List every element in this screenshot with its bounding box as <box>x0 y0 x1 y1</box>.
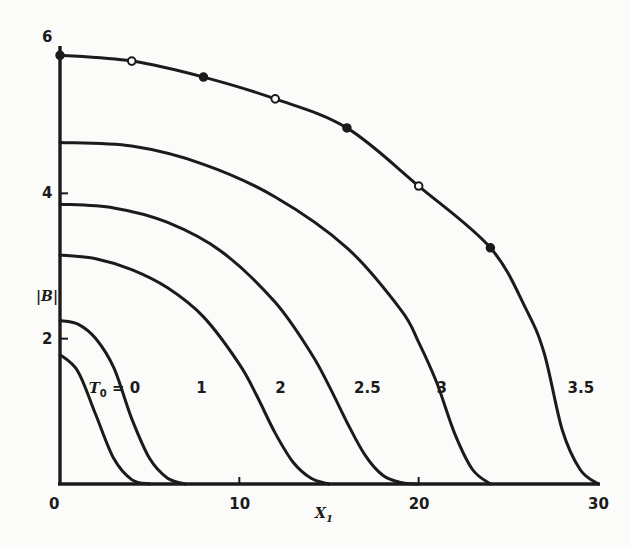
x-tick-label: 0 <box>49 495 59 513</box>
chart: 0102030 246 X1 |B| T0 = 0122.533.5 <box>0 0 631 548</box>
x-tick-label: 20 <box>409 495 430 513</box>
filled-data-marker <box>199 73 207 81</box>
x-tick-label: 10 <box>229 495 250 513</box>
curve-2 <box>60 255 329 484</box>
curve-label: 2.5 <box>354 379 381 397</box>
open-data-marker <box>128 57 136 65</box>
curve-label: 3.5 <box>568 379 595 397</box>
x-axis-label: X1 <box>314 505 333 524</box>
curve-1 <box>60 321 186 485</box>
y-tick-label: 4 <box>42 184 52 202</box>
y-tick-label: 2 <box>42 330 52 348</box>
curve-2-5 <box>60 204 419 484</box>
markers-group <box>56 51 494 252</box>
curve-t0-0 <box>60 355 150 484</box>
curve-label: 3 <box>437 379 447 397</box>
curve-label: T0 = 0 <box>89 379 141 399</box>
x-tick-label: 30 <box>588 495 609 513</box>
filled-data-marker <box>343 124 351 132</box>
filled-data-marker <box>486 244 494 252</box>
curve-labels: T0 = 0122.533.5 <box>89 379 594 399</box>
open-data-marker <box>415 182 423 190</box>
y-axis-label: |B| <box>36 288 58 305</box>
curve-label: 2 <box>275 379 285 397</box>
open-data-marker <box>271 95 279 103</box>
curve-label: 1 <box>196 379 206 397</box>
y-tick-label: 6 <box>42 28 52 46</box>
curve-3-5 <box>60 55 598 484</box>
curves-group <box>60 55 598 484</box>
